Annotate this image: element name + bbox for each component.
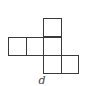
diagram-label: d: [37, 75, 47, 86]
net-cell-top: [43, 18, 62, 37]
net-cell-middle-center: [26, 37, 44, 56]
net-cell-middle-right: [43, 37, 62, 56]
net-cell-middle-left: [8, 37, 27, 56]
net-cell-bottom-left: [43, 55, 62, 74]
net-cell-bottom-right: [61, 55, 79, 74]
